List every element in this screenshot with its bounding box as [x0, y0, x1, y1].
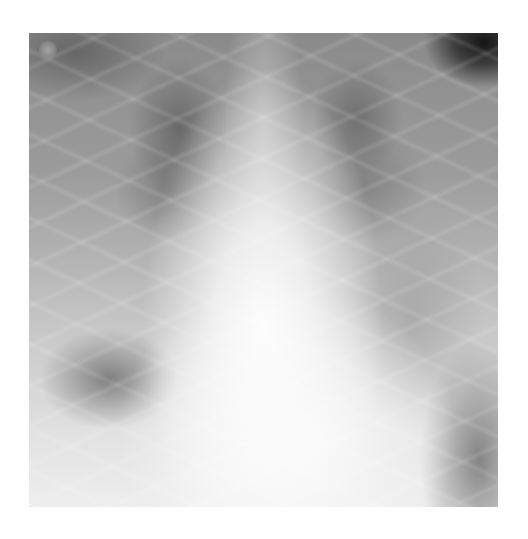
- round-density: [39, 41, 57, 59]
- chest-xray-image: [29, 33, 498, 507]
- rib-lines: [29, 33, 498, 507]
